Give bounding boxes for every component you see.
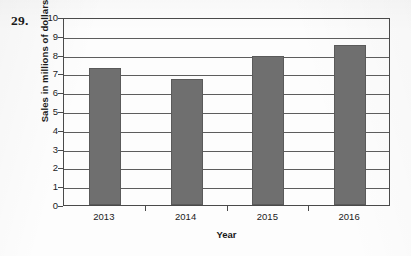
- x-axis-tick-label: 2015: [237, 211, 297, 222]
- y-axis-tick-label: 4: [36, 126, 58, 136]
- y-axis-tick-mark: [58, 131, 63, 132]
- gridline: [64, 38, 389, 39]
- y-axis-tick-label: 3: [36, 145, 58, 155]
- bar-2016: [334, 45, 366, 205]
- y-axis-tick-mark: [58, 93, 63, 94]
- y-axis-tick-mark: [58, 74, 63, 75]
- y-axis-tick-mark: [58, 187, 63, 188]
- y-axis-tick-label: 7: [36, 70, 58, 80]
- y-axis-tick-label: 10: [36, 13, 58, 23]
- y-axis-tick-label: 8: [36, 51, 58, 61]
- x-axis-tick-mark: [308, 206, 309, 211]
- y-axis-tick-mark: [58, 56, 63, 57]
- plot-frame: [63, 18, 390, 206]
- y-axis-tick-label: 0: [36, 201, 58, 211]
- bar-2015: [252, 56, 284, 205]
- y-axis-tick-label: 1: [36, 182, 58, 192]
- x-axis-tick-label: 2014: [156, 211, 216, 222]
- y-axis-tick-label: 9: [36, 32, 58, 42]
- x-axis-tick-label: 2016: [319, 211, 379, 222]
- y-axis-tick-mark: [58, 112, 63, 113]
- y-axis-tick-mark: [58, 150, 63, 151]
- x-axis-tick-label: 2013: [74, 211, 134, 222]
- y-axis-tick-label: 5: [36, 107, 58, 117]
- x-axis-tick-mark: [145, 206, 146, 211]
- y-axis-tick-mark: [58, 206, 63, 207]
- chart-screenshot: 29. Sales in millions of dollars 1098765…: [0, 0, 411, 256]
- bar-2013: [89, 68, 121, 205]
- x-axis-title: Year: [63, 229, 390, 240]
- x-axis-tick-mark: [227, 206, 228, 211]
- y-axis-tick-label: 2: [36, 164, 58, 174]
- y-axis-tick-mark: [58, 168, 63, 169]
- y-axis-tick-label: 6: [36, 88, 58, 98]
- plot-area: [64, 19, 389, 205]
- bar-2014: [171, 79, 203, 205]
- y-axis-tick-mark: [58, 37, 63, 38]
- y-axis-tick-mark: [58, 18, 63, 19]
- question-number: 29.: [11, 13, 28, 29]
